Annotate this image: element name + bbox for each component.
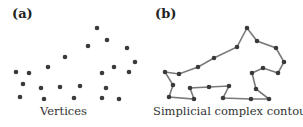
vertex-dot	[42, 97, 47, 102]
contour-vertex-dot	[267, 97, 272, 102]
vertex-dot	[133, 60, 138, 65]
vertex-dot	[72, 96, 77, 101]
vertex-dot	[86, 44, 91, 49]
contour-vertex-dot	[167, 95, 172, 100]
contour-vertex-dot	[171, 83, 176, 88]
vertex-dot	[100, 96, 105, 101]
contour-vertex-dot	[221, 96, 226, 101]
contour-vertex-dot	[274, 46, 279, 51]
contour-vertex-dot	[276, 71, 281, 76]
contour-vertex-dot	[192, 97, 197, 102]
contour-vertex-dot	[227, 84, 232, 89]
contour-edges	[165, 28, 284, 99]
contour-vertex-dot	[245, 26, 250, 31]
contour-vertex-dot	[254, 87, 259, 92]
vertex-dot	[127, 70, 132, 75]
vertex-dot	[27, 71, 32, 76]
vertex-dot	[39, 86, 44, 91]
vertex-dot	[105, 38, 110, 43]
contour-vertex-dot	[235, 45, 240, 50]
contour-vertex-dot	[177, 72, 182, 77]
vertex-dot	[104, 86, 109, 91]
vertex-dot	[18, 95, 23, 100]
vertex-dot	[63, 55, 68, 60]
vertex-dot	[58, 85, 63, 90]
figure-canvas	[0, 0, 303, 127]
vertex-dot	[112, 65, 117, 70]
contour-vertex-dot	[282, 60, 287, 65]
vertex-dot	[117, 97, 122, 102]
contour-vertex-dot	[261, 66, 266, 71]
contour-vertex-dot	[249, 97, 254, 102]
contour-vertex-dot	[163, 70, 168, 75]
contour-vertex-dot	[196, 65, 201, 70]
vertex-dot	[125, 46, 130, 51]
vertex-dot	[78, 84, 83, 89]
vertex-dot	[14, 70, 19, 75]
contour-vertex-dot	[255, 39, 260, 44]
contour-vertex-dot	[207, 85, 212, 90]
contour-vertex-dot	[250, 71, 255, 76]
contour-vertex-dot	[188, 86, 193, 91]
vertex-dot	[95, 26, 100, 31]
vertex-dot	[100, 71, 105, 76]
vertex-dot	[46, 65, 51, 70]
contour-vertex-dot	[212, 56, 217, 61]
vertex-dot	[21, 82, 26, 87]
